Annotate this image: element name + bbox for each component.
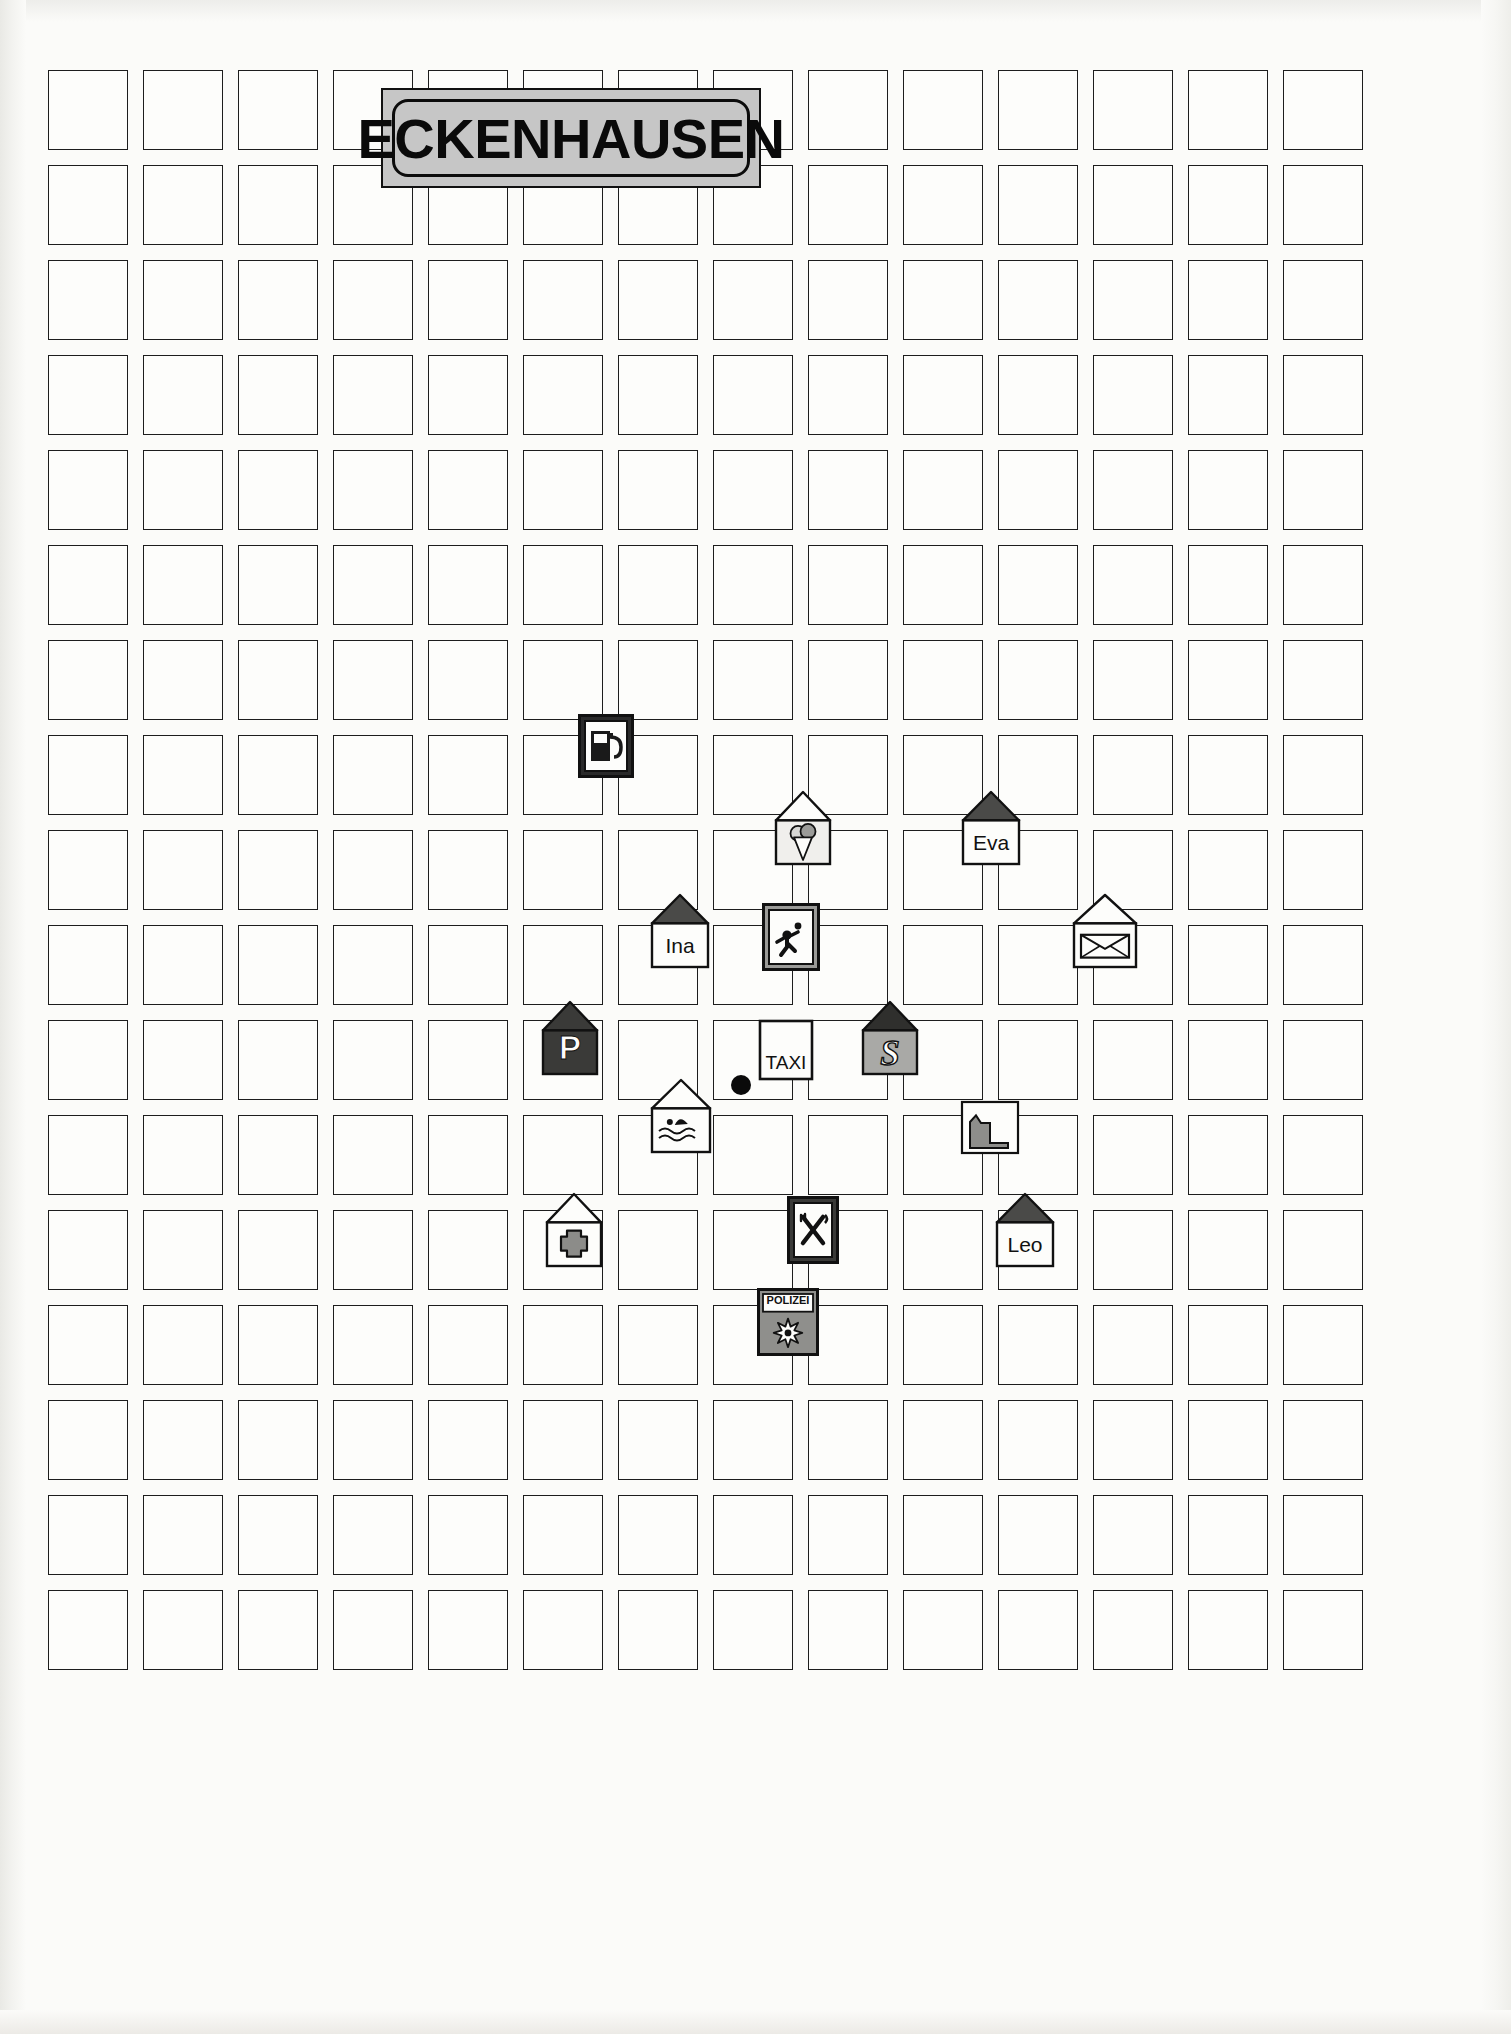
house-icon[interactable]: Ina xyxy=(650,893,710,969)
city-block xyxy=(808,1115,888,1195)
city-block xyxy=(143,355,223,435)
city-block xyxy=(808,165,888,245)
city-block xyxy=(903,925,983,1005)
city-block xyxy=(1093,1495,1173,1575)
city-block xyxy=(333,1400,413,1480)
city-block xyxy=(1283,355,1363,435)
city-block xyxy=(143,830,223,910)
city-block xyxy=(48,355,128,435)
city-block xyxy=(48,545,128,625)
city-block xyxy=(1093,735,1173,815)
city-block xyxy=(333,640,413,720)
city-block xyxy=(238,70,318,150)
city-block xyxy=(808,640,888,720)
city-block xyxy=(808,1305,888,1385)
city-block xyxy=(998,545,1078,625)
city-block xyxy=(1093,260,1173,340)
city-block xyxy=(618,355,698,435)
city-block xyxy=(143,165,223,245)
city-block xyxy=(998,70,1078,150)
city-block xyxy=(48,1210,128,1290)
police-badge-icon[interactable]: POLIZEI xyxy=(757,1288,819,1356)
svg-text:Ina: Ina xyxy=(665,934,695,957)
house-icon[interactable]: Eva xyxy=(961,790,1021,866)
city-block xyxy=(523,640,603,720)
city-block xyxy=(1283,830,1363,910)
city-block xyxy=(523,355,603,435)
city-block xyxy=(428,1115,508,1195)
city-block xyxy=(713,545,793,625)
city-block xyxy=(713,1210,793,1290)
taxi-sign-icon[interactable]: TAXI xyxy=(758,1019,814,1081)
fuel-pump-icon[interactable] xyxy=(578,714,634,778)
city-block xyxy=(1283,1020,1363,1100)
city-block xyxy=(1188,925,1268,1005)
letter-p-icon[interactable]: P xyxy=(541,1000,599,1076)
page-title: ECKENHAUSEN xyxy=(358,111,785,167)
city-block xyxy=(1188,165,1268,245)
city-block xyxy=(903,450,983,530)
city-block xyxy=(523,450,603,530)
letter-s-icon[interactable]: S xyxy=(861,1000,919,1076)
city-block xyxy=(428,450,508,530)
city-block xyxy=(618,1400,698,1480)
city-block xyxy=(1188,260,1268,340)
city-block xyxy=(1093,1305,1173,1385)
city-block xyxy=(238,1495,318,1575)
city-block xyxy=(1188,1020,1268,1100)
envelope-icon[interactable] xyxy=(1072,893,1138,969)
city-block xyxy=(143,1590,223,1670)
city-block xyxy=(238,355,318,435)
city-block xyxy=(1283,735,1363,815)
city-block xyxy=(903,1210,983,1290)
city-block xyxy=(238,640,318,720)
city-block xyxy=(808,450,888,530)
fork-knife-icon[interactable] xyxy=(787,1196,839,1264)
city-block xyxy=(1093,165,1173,245)
city-block xyxy=(428,1210,508,1290)
city-block xyxy=(428,1400,508,1480)
city-block xyxy=(713,640,793,720)
city-block xyxy=(48,830,128,910)
city-block xyxy=(1283,1590,1363,1670)
medical-cross-icon[interactable] xyxy=(545,1192,603,1268)
city-block xyxy=(48,1115,128,1195)
city-block xyxy=(333,355,413,435)
city-block xyxy=(428,830,508,910)
city-block xyxy=(998,925,1078,1005)
city-block xyxy=(523,545,603,625)
city-block xyxy=(1283,1210,1363,1290)
city-block xyxy=(1283,1305,1363,1385)
city-block xyxy=(1283,925,1363,1005)
city-block xyxy=(333,545,413,625)
factory-icon[interactable] xyxy=(960,1100,1020,1155)
city-block xyxy=(143,1115,223,1195)
city-block xyxy=(1188,830,1268,910)
ice-cream-cone-icon[interactable] xyxy=(774,790,832,866)
city-block xyxy=(713,1590,793,1670)
city-block xyxy=(48,450,128,530)
city-block xyxy=(903,1590,983,1670)
city-block xyxy=(238,830,318,910)
city-block xyxy=(48,1020,128,1100)
city-block xyxy=(143,735,223,815)
city-block xyxy=(1093,450,1173,530)
city-block xyxy=(998,355,1078,435)
city-block xyxy=(523,1400,603,1480)
city-block xyxy=(523,1305,603,1385)
town-center-dot xyxy=(731,1075,751,1095)
city-block xyxy=(428,925,508,1005)
playground-child-icon[interactable] xyxy=(762,903,820,971)
house-icon[interactable]: Leo xyxy=(995,1192,1055,1268)
city-block xyxy=(333,450,413,530)
swimmer-waves-icon[interactable] xyxy=(650,1078,712,1154)
city-block xyxy=(713,355,793,435)
city-block xyxy=(1188,355,1268,435)
city-block xyxy=(143,925,223,1005)
city-block xyxy=(618,545,698,625)
city-block xyxy=(143,1495,223,1575)
city-block xyxy=(618,1305,698,1385)
city-block xyxy=(333,1495,413,1575)
city-block xyxy=(1093,640,1173,720)
city-block xyxy=(333,925,413,1005)
